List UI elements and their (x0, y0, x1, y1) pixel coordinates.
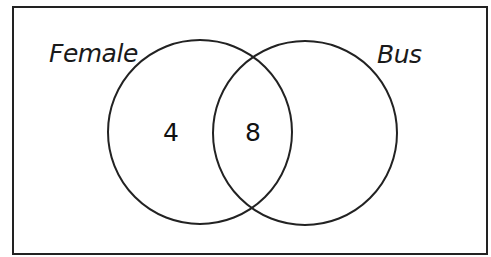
venn-diagram: Female Bus 4 8 (0, 0, 491, 257)
female-only-count: 4 (163, 118, 179, 147)
bus-set-label: Bus (377, 40, 422, 69)
female-and-bus-count: 8 (245, 118, 261, 147)
bus-set-circle (213, 41, 397, 225)
female-set-label: Female (49, 39, 138, 68)
